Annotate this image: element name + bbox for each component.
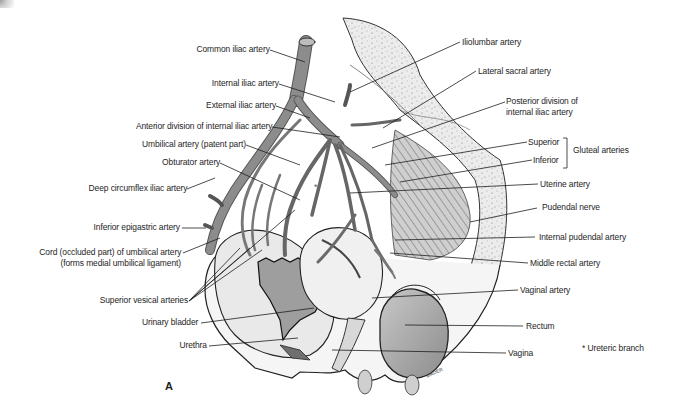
label-superior-vesical-arteries: Superior vesical arteries [100,295,188,306]
label-vaginal-artery: Vaginal artery [520,285,570,296]
label-internal-pudendal-artery: Internal pudendal artery [539,232,626,243]
label-internal-iliac-artery: Internal iliac artery [212,78,279,89]
label-pudendal-nerve: Pudendal nerve [542,202,600,213]
label-common-iliac-artery: Common iliac artery [197,44,270,55]
label-external-iliac-artery: External iliac artery [206,100,276,111]
label-uterine-artery: Uterine artery [540,179,590,190]
label-lateral-sacral-artery: Lateral sacral artery [478,66,551,77]
label-inferior-epigastric-artery: Inferior epigastric artery [94,222,180,233]
label-vagina: Vagina [508,348,533,359]
label-middle-rectal-artery: Middle rectal artery [530,258,600,269]
panel-label: A [165,380,173,392]
anatomy-figure: * [0,0,679,412]
ureteric-branch-asterisk: * [314,182,318,192]
label-gluteal-superior: Superior [528,137,559,148]
label-cord-umbilical-artery: Cord (occluded part) of umbilical artery [39,247,181,258]
label-deep-circumflex-iliac-artery: Deep circumflex iliac artery [88,183,187,194]
label-umbilical-artery-patent: Umbilical artery (patent part) [142,139,246,150]
label-iliolumbar-artery: Iliolumbar artery [462,37,521,48]
label-gluteal-inferior: Inferior [533,155,559,166]
label-posterior-division-line2: internal iliac artery [506,107,573,118]
footnote-ureteric-branch: * Ureteric branch [582,343,644,354]
label-urinary-bladder: Urinary bladder [142,317,198,328]
label-posterior-division-line1: Posterior division of [506,96,578,107]
label-anterior-division-internal-iliac: Anterior division of internal iliac arte… [135,121,272,132]
label-rectum: Rectum [526,321,555,332]
label-obturator-artery: Obturator artery [162,157,220,168]
label-medial-umbilical-ligament: (forms medial umbilical ligament) [60,258,181,269]
label-gluteal-arteries: Gluteal arteries [573,145,629,156]
label-urethra: Urethra [179,340,207,351]
